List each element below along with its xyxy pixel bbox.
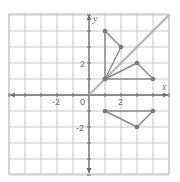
vertex-point: [103, 77, 108, 82]
y-tick-label-2: 2: [80, 59, 85, 69]
vertex-point: [135, 61, 140, 66]
coordinate-plane: x y 0 -2 2 2 -2: [0, 0, 180, 182]
x-tick-label-2: 2: [118, 97, 123, 107]
y-tick-label-neg2: -2: [76, 123, 84, 133]
vertex-point: [151, 109, 156, 114]
vertex-point: [103, 109, 108, 114]
vertex-point: [103, 29, 108, 34]
vertex-point: [151, 77, 156, 82]
x-tick-label-neg2: -2: [52, 97, 60, 107]
y-axis-label: y: [92, 13, 98, 24]
origin-label: 0: [80, 97, 85, 107]
vertex-point: [119, 45, 124, 50]
vertex-point: [135, 125, 140, 130]
x-axis-label: x: [161, 81, 167, 92]
